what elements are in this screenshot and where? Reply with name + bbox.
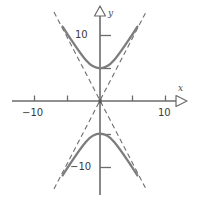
hyperbola-graph-figure: x y −10 10 10 −10 <box>0 0 197 205</box>
axis-lines <box>12 16 176 195</box>
y-tick-label-pos10: 10 <box>75 30 88 40</box>
x-tick-label-pos10: 10 <box>158 108 171 118</box>
y-axis-label: y <box>108 9 113 18</box>
origin-marker <box>99 99 102 103</box>
x-axis-arrow-icon <box>176 96 187 107</box>
y-tick-label-neg10: −10 <box>70 162 91 172</box>
graph-canvas <box>0 0 197 205</box>
y-axis-arrow-icon <box>95 6 106 16</box>
x-axis-label: x <box>178 84 183 93</box>
x-tick-label-neg10: −10 <box>22 108 43 118</box>
